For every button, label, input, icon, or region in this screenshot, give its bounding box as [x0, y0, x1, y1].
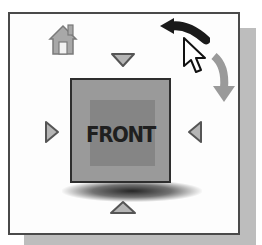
face-label: FRONT: [77, 122, 164, 147]
triangle-right-icon[interactable]: [44, 120, 60, 144]
panel-shadow-right: [240, 28, 256, 245]
home-icon[interactable]: [48, 23, 78, 56]
viewcube-front-face[interactable]: FRONT: [70, 78, 171, 183]
panel-shadow-bottom: [24, 235, 256, 245]
cube-shadow: [62, 180, 202, 202]
triangle-left-icon[interactable]: [187, 120, 203, 144]
triangle-down-icon[interactable]: [110, 52, 136, 68]
triangle-up-icon[interactable]: [109, 200, 137, 215]
curved-arrow-down-icon[interactable]: [208, 52, 238, 104]
mouse-pointer-icon: [182, 36, 208, 76]
viewcube-panel: FRONT: [8, 12, 240, 235]
